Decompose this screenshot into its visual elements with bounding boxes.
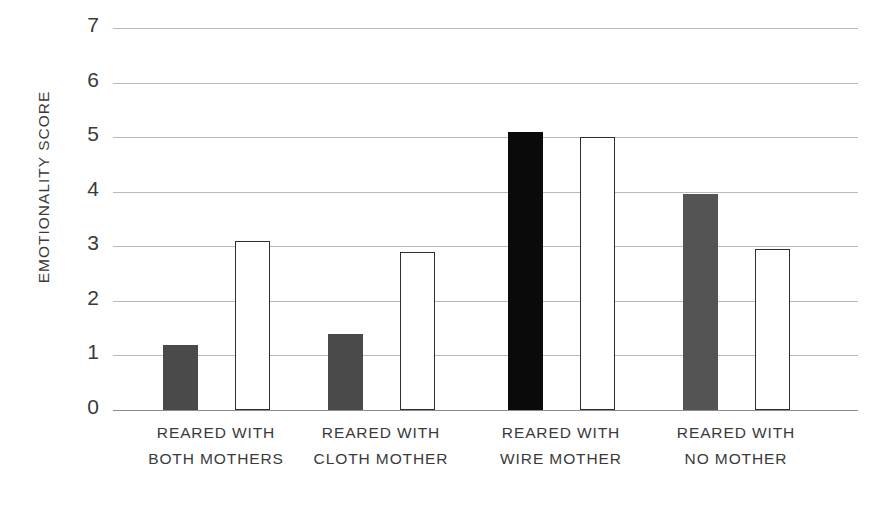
y-axis-tick-labels: 76543210 bbox=[55, 28, 99, 410]
y-tick-label-5: 5 bbox=[59, 122, 99, 146]
gridline-7 bbox=[113, 28, 858, 29]
bar-2-filled bbox=[328, 334, 363, 410]
gridline-4 bbox=[113, 192, 858, 193]
category-label-4: REARED WITHNO MOTHER bbox=[626, 420, 846, 472]
bar-1-filled bbox=[163, 345, 198, 410]
plot-area bbox=[113, 28, 858, 410]
gridline-3 bbox=[113, 246, 858, 247]
x-axis-category-labels: REARED WITHBOTH MOTHERSREARED WITHCLOTH … bbox=[113, 420, 858, 490]
bar-2-outline bbox=[400, 252, 435, 410]
y-tick-label-4: 4 bbox=[59, 177, 99, 201]
bar-4-filled bbox=[683, 194, 718, 410]
gridline-6 bbox=[113, 83, 858, 84]
y-tick-label-1: 1 bbox=[59, 341, 99, 365]
y-axis-title: EMOTIONALITY SCORE bbox=[35, 47, 53, 327]
bar-3-outline bbox=[580, 137, 615, 410]
y-tick-label-6: 6 bbox=[59, 68, 99, 92]
bar-4-outline bbox=[755, 249, 790, 410]
gridline-0 bbox=[113, 410, 858, 411]
gridline-5 bbox=[113, 137, 858, 138]
bar-3-filled bbox=[508, 132, 543, 410]
gridline-2 bbox=[113, 301, 858, 302]
y-tick-label-2: 2 bbox=[59, 286, 99, 310]
bar-1-outline bbox=[235, 241, 270, 410]
y-tick-label-0: 0 bbox=[59, 395, 99, 419]
y-tick-label-3: 3 bbox=[59, 231, 99, 255]
y-tick-label-7: 7 bbox=[59, 13, 99, 37]
category-label-line: NO MOTHER bbox=[626, 446, 846, 472]
gridline-1 bbox=[113, 355, 858, 356]
category-label-line: REARED WITH bbox=[626, 420, 846, 446]
emotionality-score-bar-chart: EMOTIONALITY SCORE 76543210 REARED WITHB… bbox=[0, 0, 875, 505]
